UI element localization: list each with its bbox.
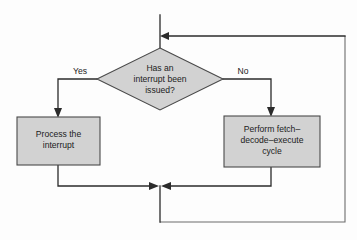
process-interrupt-line-1: Process the	[36, 129, 82, 139]
feedback-arrowhead-icon	[160, 32, 169, 40]
fetch-decode-execute-line-2: decode–execute	[240, 135, 303, 145]
right-merge-connector	[168, 167, 271, 186]
no-branch-connector	[223, 79, 271, 110]
right-merge-arrowhead-icon	[161, 182, 171, 190]
fetch-decode-execute-line-3: cycle	[262, 146, 282, 156]
no-branch-label: No	[238, 66, 249, 76]
process-interrupt-line-2: interrupt	[43, 140, 75, 150]
fetch-decode-execute-line-1: Perform fetch–	[244, 124, 301, 134]
yes-branch-connector	[58, 79, 97, 111]
flowchart-diagram: Has an interrupt been issued? Process th…	[0, 0, 357, 240]
interrupt-decision-line-1: Has an	[146, 63, 173, 73]
flowchart-container: Has an interrupt been issued? Process th…	[0, 0, 357, 240]
left-merge-connector	[58, 165, 152, 186]
yes-branch-label: Yes	[73, 66, 87, 76]
interrupt-decision-line-3: issued?	[145, 85, 175, 95]
interrupt-decision-line-2: interrupt been	[133, 74, 186, 84]
left-merge-arrowhead-icon	[149, 182, 159, 190]
